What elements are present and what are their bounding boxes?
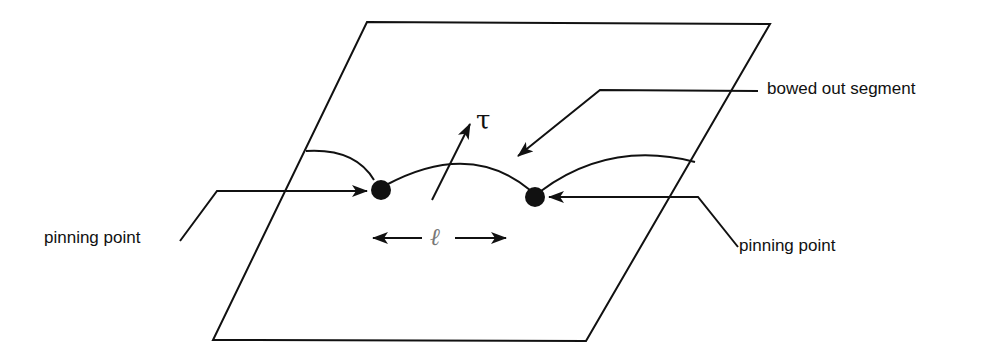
pinning-point-left-dot [371,180,391,200]
dislocation-diagram [0,0,1008,361]
length-symbol-ell: ℓ [430,225,440,249]
bowed-segment [386,164,530,190]
pinning-point-right-dot [525,187,545,207]
pinning-point-right-leader [549,197,738,247]
stress-arrow [432,124,470,200]
bowed-out-segment-label: bowed out segment [767,80,915,97]
stress-symbol-tau: τ [476,107,490,133]
pinning-point-left-label: pinning point [44,229,140,246]
slip-plane [213,22,770,341]
dislocation-right-arc [541,155,695,191]
dislocation-left-arc [306,151,374,180]
bowed-segment-leader [518,90,758,156]
pinning-point-right-label: pinning point [739,237,835,254]
